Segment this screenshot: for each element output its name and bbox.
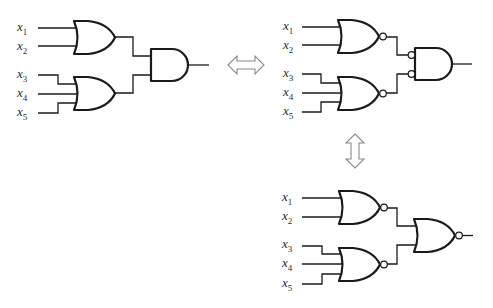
wire-or1-to-and [115, 37, 151, 56]
input-label-x4: x4 [282, 84, 294, 102]
svg-text:x1: x1 [16, 19, 27, 37]
nor-gate-1 [338, 20, 379, 53]
input-label-x1: x1 [282, 18, 293, 36]
input-label-x1: x1 [281, 189, 292, 207]
svg-text:x3: x3 [282, 65, 294, 83]
input-label-x3: x3 [16, 66, 28, 84]
or-gate-1 [74, 21, 115, 54]
input-label-x4: x4 [16, 85, 28, 103]
input-label-x3: x3 [281, 236, 293, 254]
svg-text:x2: x2 [281, 208, 292, 226]
double-arrow-vertical-icon [346, 134, 364, 168]
svg-text:x5: x5 [16, 104, 28, 122]
inversion-bubble [381, 261, 388, 268]
inversion-bubble [380, 33, 387, 40]
wire-nor1-to-nor [387, 208, 417, 226]
wire-nor2-to-and [386, 74, 408, 93]
circuit-or-and: x1 x2 x3 x4 x5 [16, 19, 209, 122]
svg-text:x4: x4 [281, 255, 293, 273]
input-label-x4: x4 [281, 255, 293, 273]
inversion-bubble [380, 90, 387, 97]
logic-diagram: x1 x2 x3 x4 x5 x1 x2 x3 x4 x5 [0, 0, 493, 308]
double-arrow-horizontal-icon [228, 56, 264, 74]
input-label-x1: x1 [16, 19, 27, 37]
and-gate [151, 49, 188, 81]
input-wires [302, 27, 342, 112]
wire-or2-to-and [115, 75, 151, 93]
svg-text:x4: x4 [282, 84, 294, 102]
input-label-x2: x2 [282, 37, 293, 55]
svg-text:x1: x1 [282, 18, 293, 36]
input-label-x2: x2 [16, 38, 27, 56]
nor-gate-1 [339, 191, 380, 224]
svg-text:x5: x5 [281, 275, 293, 293]
wire-nor1-to-and [386, 37, 408, 55]
nor-gate-2 [338, 77, 379, 110]
svg-text:x1: x1 [281, 189, 292, 207]
svg-text:x3: x3 [16, 66, 28, 84]
nor-gate-output [414, 219, 455, 252]
wire-nor2-to-nor [387, 245, 417, 264]
svg-text:x2: x2 [282, 37, 293, 55]
input-label-x5: x5 [16, 104, 28, 122]
input-label-x2: x2 [281, 208, 292, 226]
nor-gate-2 [339, 248, 380, 281]
circuit-nor-and: x1 x2 x3 x4 x5 [282, 18, 472, 121]
circuit-nor-nor: x1 x2 x3 x4 x5 [281, 189, 473, 293]
svg-text:x4: x4 [16, 85, 28, 103]
inversion-bubble [408, 71, 415, 78]
or-gate-2 [74, 77, 115, 110]
input-label-x3: x3 [282, 65, 294, 83]
and-gate-inverted-inputs [415, 48, 452, 80]
inversion-bubble [456, 232, 463, 239]
input-wires [38, 28, 78, 113]
svg-text:x2: x2 [16, 38, 27, 56]
input-wires [302, 198, 343, 284]
svg-text:x3: x3 [281, 236, 293, 254]
inversion-bubble [408, 52, 415, 59]
inversion-bubble [381, 204, 388, 211]
input-label-x5: x5 [282, 103, 294, 121]
input-label-x5: x5 [281, 275, 293, 293]
svg-text:x5: x5 [282, 103, 294, 121]
